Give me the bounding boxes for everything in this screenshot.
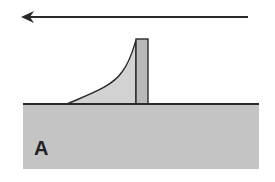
diagram-canvas: A — [0, 0, 275, 182]
wind-arrow-icon — [21, 11, 248, 23]
ground-block — [23, 104, 259, 169]
drift-deposit — [67, 40, 136, 104]
panel-label: A — [34, 137, 48, 159]
fence-barrier — [136, 39, 148, 104]
